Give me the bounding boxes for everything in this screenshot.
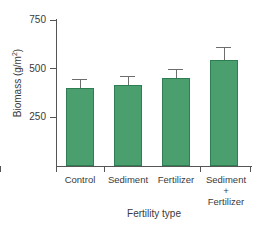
y-axis-line <box>56 19 57 167</box>
y-tick-750 <box>50 20 56 21</box>
error-line-sediment <box>128 76 129 85</box>
bar-fertilizer <box>162 78 190 167</box>
x-label-sediment-fertilizer: Sediment + Fertilizer <box>200 174 252 207</box>
y-tick-label-250: 250 <box>20 112 46 122</box>
x-label-sf-line1: Sediment <box>200 174 252 185</box>
bar-sediment-fertilizer <box>210 60 238 166</box>
x-tick-1 <box>104 166 105 172</box>
error-cap-sediment <box>120 76 135 77</box>
x-label-control: Control <box>56 174 104 185</box>
x-label-sf-line2: + <box>200 185 252 196</box>
x-label-fertilizer: Fertilizer <box>152 174 200 185</box>
error-line-fertilizer <box>176 69 177 78</box>
x-label-fertilizer-line1: Fertilizer <box>158 174 194 185</box>
x-tick-2 <box>0 166 1 172</box>
x-tick-3 <box>200 166 201 172</box>
error-cap-fertilizer <box>168 69 183 70</box>
x-label-sediment: Sediment <box>104 174 152 185</box>
error-cap-sediment-fertilizer <box>216 47 231 48</box>
x-tick-0 <box>56 166 57 172</box>
x-label-sediment-line1: Sediment <box>108 174 148 185</box>
y-axis-title-superscript: 2 <box>11 52 18 56</box>
y-tick-500 <box>50 68 56 69</box>
y-axis-title-tail: ) <box>12 49 23 52</box>
bar-sediment <box>114 85 142 166</box>
error-cap-control <box>72 79 87 80</box>
bar-control <box>66 88 94 166</box>
x-tick-4 <box>250 166 251 172</box>
y-axis-title: Biomass (g/m2) <box>6 0 24 168</box>
x-axis-title: Fertility type <box>56 208 252 219</box>
y-tick-250 <box>50 117 56 118</box>
y-tick-label-500: 500 <box>20 64 46 74</box>
x-label-sf-line3: Fertilizer <box>200 196 252 207</box>
y-tick-label-750: 750 <box>20 15 46 25</box>
bar-chart-figure: Biomass (g/m2) 750 500 250 Control Sedim… <box>0 0 270 229</box>
error-line-sediment-fertilizer <box>224 47 225 60</box>
x-label-control-line1: Control <box>65 174 96 185</box>
error-line-control <box>80 79 81 88</box>
